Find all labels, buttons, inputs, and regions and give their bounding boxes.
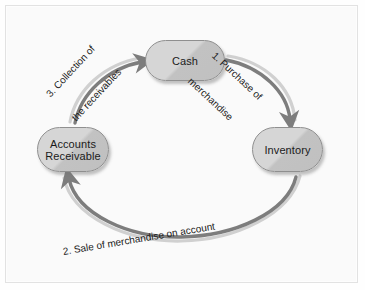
node-cash-label: Cash [172, 55, 198, 67]
arrow-label-purchase-line2: merchandise [186, 75, 241, 127]
node-inventory-label: Inventory [264, 144, 310, 156]
node-accounts-receivable-label-line1: Accounts [45, 138, 100, 150]
arrow-label-collection-line2: the receivables [69, 66, 123, 123]
node-accounts-receivable-label: Accounts Receivable [45, 138, 100, 162]
node-inventory[interactable]: Inventory [252, 127, 323, 172]
diagram-page: Cash Accounts Receivable Inventory 1. Pu… [0, 0, 365, 290]
node-accounts-receivable-label-line2: Receivable [45, 150, 100, 162]
arrow-label-purchase-line1: 1. Purchase of [209, 50, 264, 102]
